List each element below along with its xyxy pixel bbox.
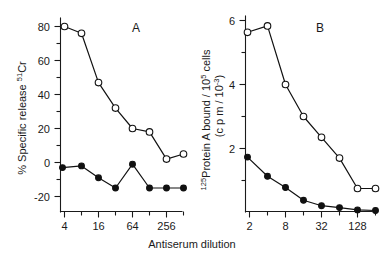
panel-b-xtick-label-128: 128 bbox=[348, 220, 366, 232]
panel-b-series-closed-markers bbox=[245, 154, 379, 213]
panel-a-ytick-label-60: 60 bbox=[38, 55, 50, 67]
panel-a: 80 60 40 20 0 -20 4 16 64 256 A % Specif… bbox=[15, 18, 187, 232]
panel-a-series-open-markers bbox=[61, 23, 187, 162]
panel-b-series-open-markers bbox=[244, 23, 379, 192]
svg-text:% Specific release 51Cr: % Specific release 51Cr bbox=[15, 61, 28, 175]
svg-text:125Protein A bound / 105 cells: 125Protein A bound / 105 cells bbox=[199, 49, 212, 190]
panel-a-ytick-label-20: 20 bbox=[38, 123, 50, 135]
panel-b-ylabel-tail: cells bbox=[200, 49, 212, 75]
panel-b-series-closed-line bbox=[248, 157, 376, 210]
panel-b-xtick-label-32: 32 bbox=[315, 220, 327, 232]
svg-text:(c p m / 10-3): (c p m / 10-3) bbox=[212, 75, 225, 137]
panel-b-xtick-label-8: 8 bbox=[282, 220, 288, 232]
panel-a-letter: A bbox=[132, 21, 140, 35]
figure-container: 80 60 40 20 0 -20 4 16 64 256 A % Specif… bbox=[0, 0, 385, 263]
panel-b-letter: B bbox=[316, 21, 324, 35]
panel-b-ylabel-line2-sup: -3 bbox=[212, 79, 221, 86]
panel-b-ytick-label-4: 4 bbox=[229, 79, 235, 91]
panel-b-series-open-line bbox=[248, 26, 376, 189]
figure-svg: 80 60 40 20 0 -20 4 16 64 256 A % Specif… bbox=[0, 0, 385, 263]
panel-a-ytick-label-80: 80 bbox=[38, 21, 50, 33]
panel-a-xtick-label-64: 64 bbox=[126, 220, 138, 232]
panel-b: 6 4 2 2 8 32 128 B 125Protein A bound / … bbox=[199, 15, 379, 233]
panel-a-ylabel-suffix: Cr bbox=[16, 61, 28, 73]
panel-a-ytick-label-minus20: -20 bbox=[34, 191, 50, 203]
shared-xlabel: Antiserum dilution bbox=[148, 238, 235, 250]
panel-b-ylabel-sup-prefix: 125 bbox=[199, 178, 208, 191]
panel-b-ytick-label-6: 6 bbox=[229, 15, 235, 27]
panel-a-xtick-label-16: 16 bbox=[92, 220, 104, 232]
panel-b-y-major-ticks bbox=[240, 21, 246, 149]
panel-b-xtick-label-2: 2 bbox=[246, 220, 252, 232]
panel-a-xtick-label-256: 256 bbox=[157, 220, 175, 232]
panel-a-xtick-label-4: 4 bbox=[61, 220, 67, 232]
panel-a-ylabel-prefix: % Specific release bbox=[16, 81, 28, 175]
panel-b-ylabel: 125Protein A bound / 105 cells (c p m / … bbox=[199, 49, 225, 190]
panel-b-y-minor-ticks bbox=[242, 53, 246, 181]
panel-b-ylabel-line2-tail: ) bbox=[213, 75, 225, 79]
panel-a-ytick-label-0: 0 bbox=[44, 157, 50, 169]
panel-b-ylabel-main: Protein A bound / 10 bbox=[200, 79, 212, 178]
panel-a-ytick-label-40: 40 bbox=[38, 89, 50, 101]
panel-a-ylabel-sup: 51 bbox=[15, 73, 24, 81]
panel-a-y-minor-ticks bbox=[57, 44, 61, 180]
panel-b-ylabel-line2: (c p m / 10 bbox=[213, 85, 225, 137]
panel-b-ytick-label-2: 2 bbox=[229, 143, 235, 155]
panel-a-series-open-line bbox=[65, 27, 184, 160]
panel-a-ylabel: % Specific release 51Cr bbox=[15, 61, 28, 175]
panel-a-series-closed-markers bbox=[60, 161, 187, 191]
